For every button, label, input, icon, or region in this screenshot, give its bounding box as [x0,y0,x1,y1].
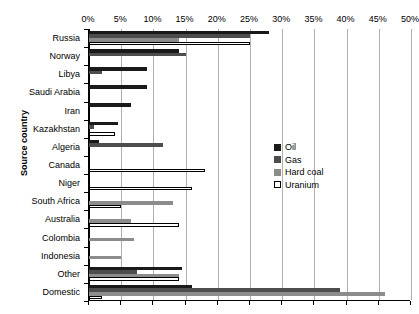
bar-uranium [89,169,205,173]
x-tick-label: 5% [114,14,127,24]
bar-oil [89,85,147,89]
gridline [411,29,412,300]
y-axis-label-canada: Canada [0,156,84,174]
legend-item-uranium: Uranium [274,179,324,192]
x-tick-label: 45% [369,14,387,24]
bar-coal [89,256,121,260]
bar-group [89,192,410,210]
bar-group [89,65,410,83]
x-tick-mark [217,301,218,305]
y-axis-label-russia: Russia [0,29,84,47]
y-axis-label-norway: Norway [0,47,84,65]
x-tick-label: 15% [176,14,194,24]
x-tick-mark [346,301,347,305]
x-tick-mark [410,301,411,305]
legend-label: Hard coal [285,166,324,179]
bar-group [89,174,410,192]
x-tick-label: 35% [304,14,322,24]
x-axis-tick-labels: 0%5%10%15%20%25%30%35%40%45%50% [88,14,410,28]
bar-group [89,47,410,65]
bar-group [89,210,410,228]
legend-swatch-uranium-icon [274,181,281,188]
bar-group [89,283,410,301]
legend-label: Oil [285,141,296,154]
y-axis-label-colombia: Colombia [0,229,84,247]
y-axis-label-domestic: Domestic [0,283,84,301]
x-tick-mark [152,301,153,305]
bar-uranium [89,205,121,209]
legend-label: Gas [285,154,302,167]
x-tick-label: 30% [272,14,290,24]
x-axis-ticks [88,301,410,306]
legend-label: Uranium [285,179,319,192]
y-axis-label-australia: Australia [0,210,84,228]
x-tick-mark [185,301,186,305]
y-axis-label-indonesia: Indonesia [0,247,84,265]
bar-group [89,120,410,138]
x-tick-label: 20% [208,14,226,24]
bar-group [89,156,410,174]
x-tick-label: 25% [240,14,258,24]
y-axis-label-libya: Libya [0,65,84,83]
x-tick-label: 40% [337,14,355,24]
x-tick-mark [281,301,282,305]
y-axis-category-labels: RussiaNorwayLibyaSaudi ArabiaIranKazakhs… [0,29,84,301]
bar-uranium [89,223,179,227]
x-tick-mark [249,301,250,305]
bar-uranium [89,132,115,136]
y-axis-label-kazakhstan: Kazakhstan [0,120,84,138]
chart-legend: OilGasHard coalUranium [274,141,324,191]
bar-group [89,102,410,120]
x-tick-mark [313,301,314,305]
bar-gas [89,53,186,57]
x-tick-mark [120,301,121,305]
bar-uranium [89,296,102,300]
bar-group [89,265,410,283]
y-axis-label-iran: Iran [0,102,84,120]
bar-group [89,247,410,265]
bar-gas [89,143,163,147]
bar-uranium [89,277,179,281]
y-axis-label-algeria: Algeria [0,138,84,156]
bar-uranium [89,187,192,191]
bar-group [89,138,410,156]
y-axis-label-south-africa: South Africa [0,192,84,210]
bar-group [89,83,410,101]
x-tick-label: 0% [81,14,94,24]
legend-item-gas: Gas [274,154,324,167]
x-tick-mark [88,301,89,305]
bar-gas [89,125,94,129]
x-tick-label: 50% [401,14,419,24]
legend-swatch-oil-icon [274,144,281,151]
bar-group [89,228,410,246]
bar-layer [89,29,410,300]
bar-gas [89,71,102,75]
bar-uranium [89,42,250,46]
x-tick-label: 10% [143,14,161,24]
plot-area [88,29,410,301]
bar-oil [89,103,131,107]
legend-swatch-coal-icon [274,169,281,176]
bar-coal [89,238,134,242]
legend-item-coal: Hard coal [274,166,324,179]
y-axis-label-saudi-arabia: Saudi Arabia [0,83,84,101]
legend-swatch-gas-icon [274,156,281,163]
y-axis-label-niger: Niger [0,174,84,192]
legend-item-oil: Oil [274,141,324,154]
bar-group [89,29,410,47]
y-axis-label-other: Other [0,265,84,283]
bar-coal [89,292,385,296]
x-tick-mark [378,301,379,305]
